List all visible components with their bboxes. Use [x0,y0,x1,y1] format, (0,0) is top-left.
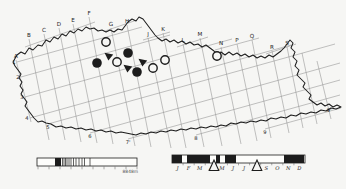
specimen-symbols [92,38,221,77]
column-letter-label: Q [250,33,255,39]
filled-triangle-marker [124,65,133,73]
phenology-filled-segment [187,155,210,163]
elevation-max-label: 8848m [123,169,138,174]
column-letter-label: D [57,21,61,27]
column-letter-label: P [235,37,239,43]
row-number-label: 9' [327,107,332,113]
open-circle-marker [149,64,157,72]
open-circle-marker [102,38,110,46]
open-circle-marker [113,58,121,66]
phenology-filled-segment [216,155,220,163]
map-outline [13,17,341,135]
column-letter-label: G [109,21,113,27]
grid-row-line [196,95,340,135]
nepal-distribution-figure: ABCDEFGHJKLMNPQRS1234567'899' 8848m JFMA… [0,0,346,189]
month-label: M [218,165,225,171]
open-circle-marker [213,52,221,60]
column-letter-label: M [198,31,203,37]
map-grid [16,17,341,148]
month-label: F [186,165,191,171]
column-letter-label: H [125,18,129,24]
column-letter-label: L [181,37,185,43]
month-label: O [275,165,280,171]
elevation-solid-block [55,158,61,166]
phenology-filled-segment [225,155,236,163]
filled-triangle-marker [139,59,148,67]
row-number-label: 6 [88,133,91,139]
filled-circle-marker [123,48,133,58]
grid-row-line [48,44,335,124]
grid-column-line [16,60,31,122]
month-label: D [296,165,302,171]
column-letter-label: E [71,17,75,23]
month-label: J [175,165,179,172]
country-border [13,17,341,135]
month-label: J [231,165,235,172]
filled-circle-marker [132,67,142,77]
row-number-label: 1 [12,59,15,65]
month-label: J [242,165,246,172]
column-letter-label: F [87,10,90,16]
column-letter-label: C [42,27,46,33]
month-label: N [285,165,291,171]
grid-column-line [272,51,289,133]
grid-row-line [21,35,170,77]
grid-row-line [90,63,340,133]
row-number-label: 8 [194,135,197,141]
elevation-bar-outline [37,158,137,166]
row-number-label: 7' [126,139,131,145]
phenology-filled-segment [284,155,304,163]
phenology-scale: JFMAMJJASOND [172,155,305,172]
column-letter-label: S [285,40,289,46]
grid-column-line [237,44,257,141]
filled-triangle-marker [105,53,114,61]
filled-circle-marker [92,58,102,68]
elevation-scale: 8848m [37,158,138,174]
column-letter-label: K [161,26,165,32]
row-number-label: 3 [20,94,23,100]
column-letter-label: N [219,40,223,46]
row-number-label: 4 [25,115,29,121]
column-letter-label: J [146,31,149,38]
row-number-label: 9 [263,129,266,135]
row-number-label: 5 [46,124,49,130]
grid-column-line [252,40,271,138]
grid-column-line [183,44,204,147]
grid-column-line [73,24,97,143]
row-number-label: 2 [16,74,19,80]
grid-column-line [127,25,151,147]
month-label: S [264,165,268,171]
column-letter-label: R [270,44,274,50]
phenology-filled-segment [172,155,182,163]
month-label: M [196,165,203,171]
column-letter-label: B [27,32,31,38]
open-circle-marker [161,56,169,64]
